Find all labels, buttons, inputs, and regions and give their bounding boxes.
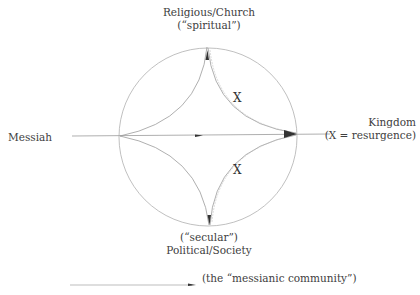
curve-left-to-bottom xyxy=(120,136,209,225)
curve-top-to-right xyxy=(208,48,296,133)
top-label-line1: Religious/Church xyxy=(163,6,255,19)
top-label-line2: (“spiritual”) xyxy=(163,19,255,32)
bottom-label: (“secular”) Political/Society xyxy=(166,231,251,257)
x-mark-upper: X xyxy=(233,91,242,105)
legend-arrow-icon xyxy=(188,284,196,287)
right-label: Kingdom (X = resurgence) xyxy=(325,116,416,142)
x-mark-lower: X xyxy=(233,163,242,177)
right-label-line1: Kingdom xyxy=(325,116,416,129)
right-label-line2: (X = resurgence) xyxy=(325,129,416,142)
curve-bottom-to-right xyxy=(210,135,296,225)
outer-circle xyxy=(119,48,297,226)
left-label: Messiah xyxy=(8,131,52,144)
legend-text: (the “messianic community”) xyxy=(202,272,357,285)
top-label: Religious/Church (“spiritual”) xyxy=(163,6,255,32)
bottom-label-line1: (“secular”) xyxy=(166,231,251,244)
bottom-label-line2: Political/Society xyxy=(166,244,251,257)
arrow-right-icon xyxy=(284,130,297,138)
